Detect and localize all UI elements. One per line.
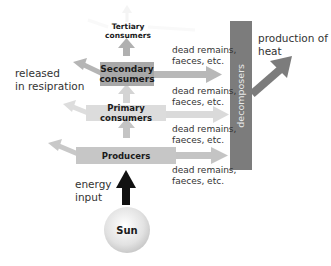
energy-text-line1: energy <box>75 178 112 191</box>
released-text-line1: released <box>15 67 84 80</box>
energy-text-line2: input <box>75 191 112 204</box>
dead-remains-arrow-primary-icon <box>160 106 229 123</box>
producers-text: Producers <box>102 151 150 161</box>
faeces-text: faeces, etc. <box>172 56 236 67</box>
secondary-consumers-box: Secondary consumers <box>100 62 154 86</box>
dead-remains-arrow-secondary-icon <box>150 66 222 83</box>
dead-remains-text: dead remains, <box>172 45 236 56</box>
heat-arrow-icon <box>252 56 292 94</box>
dead-remains-text: dead remains, <box>172 165 236 176</box>
primary-consumers-box: Primary consumers <box>86 105 166 121</box>
production-of-heat-label: production of heat <box>258 32 328 58</box>
energy-input-arrow-icon <box>116 170 136 205</box>
up-arrow-primary-to-secondary-icon <box>118 84 135 103</box>
released-in-respiration-label: released in resipration <box>15 67 84 93</box>
sun-text: Sun <box>116 225 137 236</box>
heat-text-line2: heat <box>258 45 328 58</box>
primary-text: Primary consumers <box>86 103 166 123</box>
sun-label: Sun <box>104 221 150 239</box>
secondary-text-line2: consumers <box>100 74 155 84</box>
energy-input-label: energy input <box>75 178 112 204</box>
dead-remains-label-4: dead remains, faeces, etc. <box>172 165 236 187</box>
respiration-arrow-producers-icon <box>48 139 78 154</box>
faeces-text: faeces, etc. <box>172 135 236 146</box>
dead-remains-label-1: dead remains, faeces, etc. <box>172 45 236 67</box>
respiration-arrow-primary-icon <box>63 100 88 113</box>
heat-text-line1: production of <box>258 32 328 45</box>
released-text-line2: in resipration <box>15 80 84 93</box>
tertiary-text: Tertiary consumers <box>103 22 153 40</box>
decomposers-text: decomposers <box>235 64 246 128</box>
dead-remains-text: dead remains, <box>172 86 236 97</box>
energy-flow-diagram: Tertiary consumers Secondary consumers P… <box>0 0 331 266</box>
faeces-text: faeces, etc. <box>172 97 236 108</box>
secondary-text-line1: Secondary <box>100 64 153 74</box>
producers-box: Producers <box>76 147 176 164</box>
up-arrow-secondary-to-tertiary-icon <box>118 38 135 56</box>
dead-remains-label-2: dead remains, faeces, etc. <box>172 86 236 108</box>
tertiary-consumers-label: Tertiary consumers <box>98 22 158 40</box>
dead-remains-text: dead remains, <box>172 124 236 135</box>
dead-remains-label-3: dead remains, faeces, etc. <box>172 124 236 146</box>
faeces-text: faeces, etc. <box>172 176 236 187</box>
